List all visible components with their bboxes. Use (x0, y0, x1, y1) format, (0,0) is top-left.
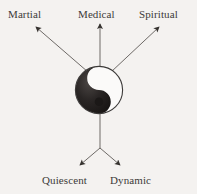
diagram-vector-layer (0, 0, 197, 194)
yin-yang-symbol (75, 66, 122, 113)
yin-yang-dark-dot (95, 98, 104, 107)
label-medical: Medical (78, 9, 115, 20)
label-spiritual: Spiritual (139, 9, 178, 20)
arrow-quiescent (80, 148, 100, 165)
yin-yang-light-dot (95, 74, 104, 83)
arrow-spiritual (111, 27, 159, 72)
label-martial: Martial (8, 9, 41, 20)
diagram-canvas: Martial Medical Spiritual Quiescent Dyna… (0, 0, 197, 194)
label-dynamic: Dynamic (110, 175, 151, 186)
arrow-dynamic (100, 148, 120, 165)
label-quiescent: Quiescent (42, 175, 87, 186)
arrow-martial (36, 27, 88, 72)
